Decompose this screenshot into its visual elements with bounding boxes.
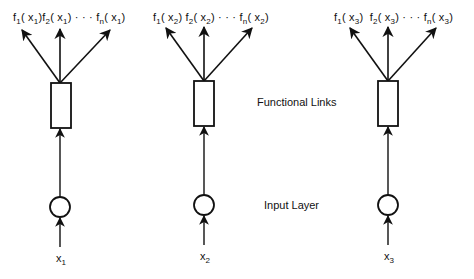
- input-node: [378, 195, 398, 215]
- functional-link-box: [51, 83, 71, 128]
- output-label-fn: fn( x2): [239, 11, 268, 23]
- output-label-fn: fn( x3): [424, 11, 453, 23]
- output-label-fn: fn( x1): [96, 11, 125, 23]
- output-labels-column-2: f1( x2) f2( x2) · · · fn( x2): [153, 11, 269, 26]
- output-label-f1: f1( x1): [13, 11, 42, 23]
- column-2: [166, 27, 252, 245]
- output-label-f2: f2( x2): [186, 11, 215, 23]
- input-node: [194, 195, 214, 215]
- input-variable-x2: x2: [200, 250, 210, 265]
- column-3: [350, 27, 436, 245]
- column-1: [22, 29, 110, 247]
- input-variable-x1: x1: [56, 252, 66, 267]
- ellipsis: · · ·: [75, 11, 93, 23]
- functional-links-label: Functional Links: [257, 96, 337, 108]
- output-arrow-fn: [204, 28, 252, 81]
- functional-link-box: [378, 81, 398, 126]
- output-label-f1: f1( x3): [334, 11, 363, 23]
- output-labels-column-3: f1( x3) f2( x3) · · · fn( x3): [334, 11, 453, 26]
- output-arrow-f1: [22, 30, 60, 83]
- output-label-f2: f2( x3): [370, 11, 399, 23]
- output-arrow-fn: [388, 28, 436, 81]
- output-label-f2: f2( x1): [42, 11, 71, 23]
- output-arrow-f1: [166, 28, 204, 81]
- functional-link-network-diagram: [0, 0, 474, 279]
- output-labels-column-1: f1( x1)f2( x1) · · · fn( x1): [13, 11, 125, 26]
- functional-link-box: [194, 81, 214, 126]
- ellipsis: · · ·: [402, 11, 420, 23]
- output-arrow-f1: [350, 28, 388, 81]
- input-layer-label: Input Layer: [264, 199, 319, 211]
- output-label-f1: f1( x2): [153, 11, 182, 23]
- input-variable-x3: x3: [384, 250, 394, 265]
- input-node: [50, 197, 70, 217]
- ellipsis: · · ·: [218, 11, 236, 23]
- output-arrow-fn: [60, 30, 110, 83]
